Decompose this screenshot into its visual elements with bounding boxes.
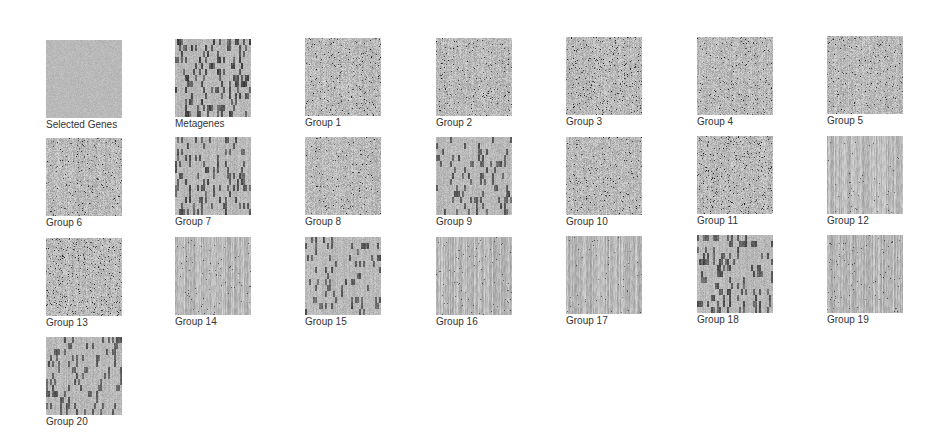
heatmap-panel: Group 3 xyxy=(566,37,676,128)
heatmap-panel: Group 14 xyxy=(175,237,285,328)
heatmap-panel: Group 4 xyxy=(697,37,807,128)
heatmap-image xyxy=(566,137,642,215)
heatmap-panel: Group 10 xyxy=(566,137,676,228)
heatmap-image xyxy=(436,237,512,315)
heatmap-panel: Group 19 xyxy=(827,235,937,326)
heatmap-panel: Group 2 xyxy=(436,38,546,129)
heatmap-panel: Group 6 xyxy=(46,138,156,229)
heatmap-panel: Group 15 xyxy=(305,237,415,328)
heatmap-image xyxy=(305,137,381,215)
heatmap-image xyxy=(436,137,512,215)
heatmap-image xyxy=(566,236,642,314)
heatmap-label: Group 5 xyxy=(827,115,937,127)
heatmap-label: Group 1 xyxy=(305,117,415,129)
heatmap-image xyxy=(827,36,903,114)
heatmap-image xyxy=(566,37,642,115)
heatmap-label: Metagenes xyxy=(175,118,285,130)
heatmap-image xyxy=(697,235,773,313)
heatmap-label: Group 14 xyxy=(175,316,285,328)
heatmap-label: Group 20 xyxy=(46,416,156,428)
heatmap-panel: Group 12 xyxy=(827,136,937,227)
heatmap-panel: Group 11 xyxy=(697,136,807,227)
heatmap-label: Group 17 xyxy=(566,315,676,327)
heatmap-panel: Group 7 xyxy=(175,137,285,228)
heatmap-label: Group 8 xyxy=(305,216,415,228)
heatmap-image xyxy=(175,137,251,215)
heatmap-image xyxy=(175,237,251,315)
heatmap-panel: Group 17 xyxy=(566,236,676,327)
heatmap-image xyxy=(436,38,512,116)
heatmap-label: Group 18 xyxy=(697,314,807,326)
heatmap-image xyxy=(305,237,381,315)
heatmap-label: Group 9 xyxy=(436,216,546,228)
heatmap-image xyxy=(697,37,773,115)
heatmap-label: Group 10 xyxy=(566,216,676,228)
heatmap-label: Selected Genes xyxy=(46,119,156,131)
heatmap-label: Group 15 xyxy=(305,316,415,328)
heatmap-panel: Group 13 xyxy=(46,238,156,329)
heatmap-panel: Group 1 xyxy=(305,38,415,129)
heatmap-image xyxy=(46,40,122,118)
heatmap-panel: Metagenes xyxy=(175,39,285,130)
heatmap-image xyxy=(827,136,903,214)
heatmap-panel: Group 20 xyxy=(46,337,156,428)
heatmap-panel: Group 5 xyxy=(827,36,937,127)
heatmap-label: Group 11 xyxy=(697,215,807,227)
heatmap-label: Group 2 xyxy=(436,117,546,129)
heatmap-label: Group 6 xyxy=(46,217,156,229)
heatmap-panel: Group 18 xyxy=(697,235,807,326)
heatmap-image xyxy=(46,138,122,216)
heatmap-label: Group 4 xyxy=(697,116,807,128)
heatmap-image xyxy=(305,38,381,116)
heatmap-panel: Group 9 xyxy=(436,137,546,228)
heatmap-label: Group 19 xyxy=(827,314,937,326)
heatmap-image xyxy=(697,136,773,214)
heatmap-label: Group 7 xyxy=(175,216,285,228)
heatmap-label: Group 16 xyxy=(436,316,546,328)
heatmap-panel: Selected Genes xyxy=(46,40,156,131)
heatmap-label: Group 3 xyxy=(566,116,676,128)
heatmap-image xyxy=(827,235,903,313)
heatmap-label: Group 13 xyxy=(46,317,156,329)
heatmap-image xyxy=(46,238,122,316)
heatmap-panel: Group 8 xyxy=(305,137,415,228)
heatmap-panel: Group 16 xyxy=(436,237,546,328)
heatmap-image xyxy=(175,39,251,117)
heatmap-image xyxy=(46,337,122,415)
heatmap-label: Group 12 xyxy=(827,215,937,227)
